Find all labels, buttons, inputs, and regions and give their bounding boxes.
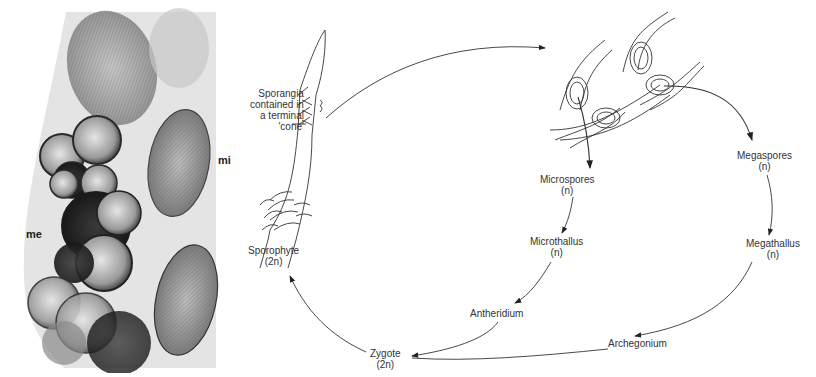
node-microspores: Microspores (n) [540, 174, 594, 196]
note-line-1: Sporangia [250, 88, 304, 99]
node-zygote: Zygote (2n) [370, 348, 401, 370]
zygote-label: Zygote [370, 348, 401, 359]
sporophyte-ploidy: (2n) [248, 256, 299, 267]
sporophyte-label: Sporophyte [248, 245, 299, 256]
microthallus-ploidy: (n) [530, 247, 583, 258]
label-microspores-mi: mi [218, 154, 231, 166]
node-archegonium: Archegonium [608, 338, 667, 349]
sporangia-cone-note: Sporangia contained in a terminal 'cone' [250, 88, 304, 132]
note-line-4: 'cone' [250, 121, 304, 132]
node-antheridium: Antheridium [470, 308, 523, 319]
microspores-ploidy: (n) [540, 185, 594, 196]
diagram-lines [240, 0, 816, 377]
megathallus-label: Megathallus [746, 238, 800, 249]
node-megaspores: Megaspores (n) [737, 150, 792, 172]
megaspores-label: Megaspores [737, 150, 792, 161]
microthallus-label: Microthallus [530, 236, 583, 247]
megaspores-ploidy: (n) [737, 161, 792, 172]
note-line-2: contained in [250, 99, 304, 110]
node-megathallus: Megathallus (n) [746, 238, 800, 260]
micrograph-spores: me mi [4, 8, 232, 373]
label-megaspores-me: me [26, 228, 42, 240]
micrograph-image [4, 8, 232, 373]
life-cycle-diagram: Sporangia contained in a terminal 'cone'… [240, 0, 816, 377]
microspores-label: Microspores [540, 174, 594, 185]
cone-tip [300, 30, 325, 95]
note-line-3: a terminal [250, 110, 304, 121]
node-sporophyte: Sporophyte (2n) [248, 245, 299, 267]
node-microthallus: Microthallus (n) [530, 236, 583, 258]
megathallus-ploidy: (n) [746, 249, 800, 260]
cone-bracket [320, 100, 322, 112]
archegonium-label: Archegonium [608, 338, 667, 349]
zygote-ploidy: (2n) [370, 359, 401, 370]
antheridium-label: Antheridium [470, 308, 523, 319]
